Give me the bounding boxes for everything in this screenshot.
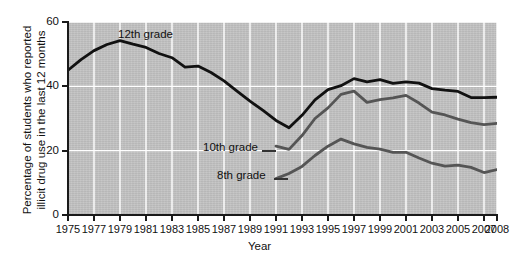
y-axis-title: Percentage of students who reported illi…: [20, 15, 48, 225]
y-axis-title-line-1: Percentage of students who reported: [20, 15, 34, 225]
x-axis-tick: [457, 216, 459, 221]
x-axis-tick: [496, 216, 498, 221]
x-axis-tick: [275, 216, 277, 221]
x-axis-tick: [197, 216, 199, 221]
series-svg-layer: [68, 22, 497, 215]
x-axis-tick-label: 2008: [482, 223, 512, 235]
plot-area: [68, 22, 497, 215]
y-axis-tick: [62, 85, 67, 87]
x-axis-tick: [431, 216, 433, 221]
drug-use-line-chart: 0204060197519771979198119831985198719891…: [0, 0, 519, 263]
leader-line-10th: [262, 150, 276, 152]
series-label-10th-grade: 10th grade: [203, 141, 258, 153]
y-axis-tick: [62, 150, 67, 152]
y-axis-tick: [62, 21, 67, 23]
x-axis-tick: [353, 216, 355, 221]
x-axis-tick: [67, 216, 69, 221]
x-axis-tick: [483, 216, 485, 221]
gridlines: [68, 22, 497, 215]
x-axis-tick: [249, 216, 251, 221]
x-axis-tick: [301, 216, 303, 221]
series-label-12th-grade: 12th grade: [118, 28, 173, 40]
x-axis-tick: [327, 216, 329, 221]
series-label-8th-grade: 8th grade: [217, 169, 266, 181]
x-axis-title: Year: [0, 240, 519, 252]
x-axis-line: [67, 214, 498, 216]
x-axis-tick: [93, 216, 95, 221]
x-axis-tick: [379, 216, 381, 221]
x-axis-tick: [145, 216, 147, 221]
x-axis-tick: [405, 216, 407, 221]
series-line-10th-grade: [276, 91, 497, 149]
x-axis-tick: [119, 216, 121, 221]
series-line-8th-grade: [276, 139, 497, 179]
x-axis-tick: [223, 216, 225, 221]
x-axis-tick: [171, 216, 173, 221]
y-axis-line: [67, 21, 69, 216]
leader-line-8th: [274, 178, 288, 180]
y-axis-title-line-2: illicit drug use in the last 12 months: [34, 15, 48, 225]
